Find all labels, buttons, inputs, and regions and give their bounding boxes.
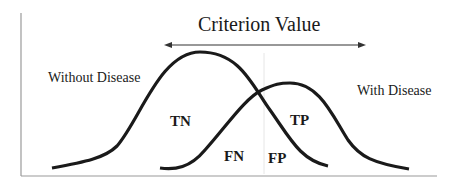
fp-label: FP <box>268 151 286 166</box>
roc-distribution-diagram: Criterion Value Without Disease With Dis… <box>0 0 454 189</box>
criterion-arrow-icon <box>164 42 366 48</box>
criterion-value-title: Criterion Value <box>198 14 320 34</box>
tp-label: TP <box>290 113 309 128</box>
without-disease-label: Without Disease <box>48 71 140 85</box>
tn-label: TN <box>170 114 191 129</box>
fn-label: FN <box>224 149 244 164</box>
with-disease-label: With Disease <box>357 84 431 98</box>
